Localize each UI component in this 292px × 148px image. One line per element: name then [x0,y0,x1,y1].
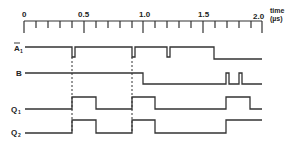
axis-title: time [270,7,285,14]
time-axis [24,21,262,33]
signal-label-b: B [16,69,22,78]
svg-text:1: 1 [20,48,23,54]
waveform-q2 [25,120,262,133]
svg-text:Q: Q [11,128,17,137]
svg-text:1: 1 [18,109,21,115]
tick-label-0.5: 0.5 [78,10,90,19]
waveform-a1 [25,47,262,59]
tick-label-0: 0 [22,10,27,19]
signal-label-q1: Q 1 [11,105,21,115]
waveform-q1 [25,97,262,109]
signal-label-a1: A 1 [14,43,23,54]
tick-label-1.5: 1.5 [198,10,210,19]
svg-text:2: 2 [18,132,21,138]
tick-label-1.0: 1.0 [139,10,151,19]
waveform-b [25,73,262,84]
timing-diagram: 0 0.5 1.0 1.5 2.0 time (µs) A 1 B Q [0,0,292,148]
tick-label-2.0: 2.0 [253,12,265,21]
axis-unit: (µs) [270,15,283,23]
signal-label-q2: Q 2 [11,128,21,138]
svg-text:Q: Q [11,105,17,114]
